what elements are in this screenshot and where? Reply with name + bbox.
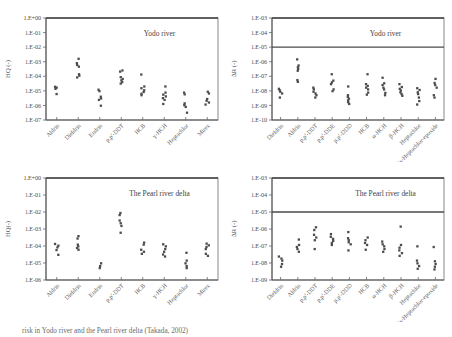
- panel-title: The Pearl river delta: [355, 189, 416, 198]
- y-tick-label: 1.E-07: [251, 242, 267, 249]
- x-tick-label: p,p'-DDD: [332, 282, 354, 304]
- y-tick-label: 1.E-04: [251, 29, 267, 36]
- data-point: [297, 70, 299, 72]
- data-point: [348, 241, 350, 243]
- data-point: [381, 77, 383, 79]
- data-point: [436, 87, 438, 89]
- data-point: [416, 103, 418, 105]
- x-tick-label: p,p'-DDT: [104, 282, 125, 303]
- data-point: [165, 95, 167, 97]
- data-point: [348, 103, 350, 105]
- data-point: [186, 267, 188, 269]
- data-point: [98, 99, 100, 101]
- data-point: [76, 76, 78, 78]
- x-tick-label: Endrin: [87, 282, 103, 298]
- data-point: [77, 249, 79, 251]
- data-point: [298, 244, 300, 246]
- data-point: [55, 93, 57, 95]
- data-point: [416, 87, 418, 89]
- plot-area: 1.E-031.E-041.E-051.E-061.E-071.E-081.E-…: [226, 2, 452, 162]
- y-tick-label: 1.E-07: [25, 116, 41, 123]
- y-tick-label: 1.E-06: [25, 102, 41, 109]
- x-tick-label: Mirex: [196, 282, 211, 297]
- data-point: [433, 94, 435, 96]
- y-tick-label: 1.E+00: [24, 174, 42, 181]
- data-point: [204, 103, 206, 105]
- y-tick-label: 1.E-06: [251, 225, 267, 232]
- data-point: [433, 246, 435, 248]
- data-point: [281, 263, 283, 265]
- data-point: [185, 252, 187, 254]
- data-point: [120, 225, 122, 227]
- data-point: [164, 85, 166, 87]
- data-point: [55, 249, 57, 251]
- y-tick-label: 1.E-02: [25, 208, 41, 215]
- y-tick-label: 1.E-03: [251, 174, 267, 181]
- data-point: [381, 84, 383, 86]
- data-point: [280, 257, 282, 259]
- data-point: [418, 89, 420, 91]
- x-tick-label: Heptachlor: [166, 122, 189, 145]
- data-point: [366, 73, 368, 75]
- data-point: [347, 249, 349, 251]
- data-point: [330, 83, 332, 85]
- data-point: [140, 249, 142, 251]
- y-axis-title: HQ(-): [4, 221, 12, 237]
- y-tick-label: 1.E-05: [25, 259, 41, 266]
- y-tick-label: 1.E-01: [25, 29, 41, 36]
- data-point: [348, 239, 350, 241]
- data-point: [331, 90, 333, 92]
- panel-title: Yodo river: [144, 29, 176, 38]
- y-tick-label: 1.E-05: [251, 208, 267, 215]
- y-tick-label: 1.E-03: [25, 58, 41, 65]
- y-tick-label: 1.E-09: [251, 276, 267, 283]
- data-point: [296, 58, 298, 60]
- data-point: [401, 252, 403, 254]
- x-tick-label: Endrin: [87, 122, 103, 138]
- y-tick-label: 1.E-03: [251, 14, 267, 21]
- data-point: [165, 245, 167, 247]
- data-point: [434, 263, 436, 265]
- y-tick-label: 1.E-05: [25, 87, 41, 94]
- data-point: [281, 259, 283, 261]
- figure-caption: risk in Yodo river and the Pearl river d…: [22, 327, 442, 336]
- data-point: [416, 245, 418, 247]
- data-point: [313, 88, 315, 90]
- y-tick-label: 1.E-05: [251, 43, 267, 50]
- data-point: [162, 253, 164, 255]
- data-point: [205, 253, 207, 255]
- data-point: [141, 253, 143, 255]
- data-point: [205, 242, 207, 244]
- data-point: [121, 69, 123, 71]
- data-point: [162, 243, 164, 245]
- x-tick-label: α-HCH: [370, 122, 387, 139]
- data-point: [433, 96, 435, 98]
- y-tick-label: 1.E-04: [25, 242, 41, 249]
- data-point: [314, 239, 316, 241]
- data-point: [296, 248, 298, 250]
- data-point: [205, 248, 207, 250]
- data-point: [162, 103, 164, 105]
- data-point: [278, 255, 280, 257]
- x-tick-label: HCB: [357, 122, 370, 135]
- data-point: [315, 226, 317, 228]
- data-point: [297, 81, 299, 83]
- data-point: [280, 266, 282, 268]
- y-tick-label: 1.E-04: [25, 72, 41, 79]
- data-point: [312, 91, 314, 93]
- data-point: [205, 100, 207, 102]
- data-point: [367, 236, 369, 238]
- data-point: [332, 238, 334, 240]
- data-point: [330, 233, 332, 235]
- x-tick-label: γ-HCH: [151, 122, 169, 140]
- data-point: [119, 219, 121, 221]
- data-point: [298, 238, 300, 240]
- data-point: [140, 73, 142, 75]
- data-point: [143, 243, 145, 245]
- data-point: [186, 265, 188, 267]
- x-tick-label: Mirex: [196, 122, 211, 137]
- data-point: [315, 236, 317, 238]
- data-point: [184, 262, 186, 264]
- data-point: [330, 236, 332, 238]
- plot-area: 1.E+001.E-011.E-021.E-031.E-041.E-051.E-…: [0, 2, 226, 162]
